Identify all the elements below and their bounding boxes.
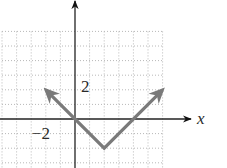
x-tick-label-neg2: −2 [32,124,50,143]
y-tick-label-2: 2 [81,77,90,96]
graph: 2 −2 x [0,0,227,168]
grid [2,31,163,168]
x-axis-label: x [196,109,205,128]
